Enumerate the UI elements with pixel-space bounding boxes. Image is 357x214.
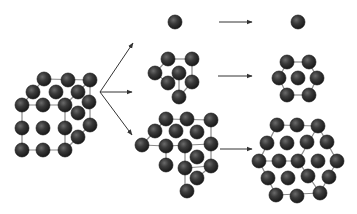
- atom-sphere: [204, 137, 218, 151]
- atom-sphere: [190, 171, 204, 185]
- cluster-rows: [135, 15, 344, 203]
- atom-sphere: [159, 139, 173, 153]
- atom-sphere: [330, 154, 344, 168]
- single-atom-relaxed: [291, 15, 305, 29]
- cube-lattice: [15, 72, 97, 157]
- atom-sphere: [204, 159, 218, 173]
- atom-sphere: [49, 85, 63, 99]
- atom-sphere: [302, 55, 316, 69]
- atom-sphere: [159, 112, 173, 126]
- atom-sphere: [36, 98, 50, 112]
- row-seven-atom-cluster: [148, 52, 324, 104]
- atom-sphere: [311, 119, 325, 133]
- atom-sphere: [148, 66, 162, 80]
- atom-sphere: [311, 154, 325, 168]
- atom-sphere: [178, 161, 192, 175]
- atom-sphere: [71, 130, 85, 144]
- row-single-atom: [168, 15, 305, 29]
- atom-sphere: [71, 106, 85, 120]
- atom-sphere: [37, 72, 51, 86]
- atom-sphere: [272, 71, 286, 85]
- atom-sphere: [83, 73, 97, 87]
- atom-sphere: [280, 136, 294, 150]
- atom-sphere: [261, 171, 275, 185]
- atom-sphere: [82, 95, 96, 109]
- atom-sphere: [280, 88, 294, 102]
- atom-sphere: [270, 118, 284, 132]
- atom-sphere: [281, 171, 295, 185]
- atom-sphere: [252, 154, 266, 168]
- atom-sphere: [180, 184, 194, 198]
- branch-arrows: [100, 43, 133, 135]
- atom-sphere: [302, 88, 316, 102]
- atom-sphere: [36, 121, 50, 135]
- atom-sphere: [269, 188, 283, 202]
- atom-sphere: [15, 98, 29, 112]
- atom-sphere: [272, 154, 286, 168]
- atom-sphere: [83, 118, 97, 132]
- cluster-transformation-diagram: [0, 0, 357, 214]
- atom-sphere: [159, 158, 173, 172]
- atom-sphere: [135, 138, 149, 152]
- atom-sphere: [58, 98, 72, 112]
- nineteen-atom-cluster-initial: [135, 112, 218, 198]
- atom-sphere: [26, 85, 40, 99]
- atom-sphere: [291, 71, 305, 85]
- atom-sphere: [58, 143, 72, 157]
- diagram-canvas: [0, 0, 357, 214]
- branch-arrow-icon: [100, 92, 132, 135]
- atom-sphere: [161, 76, 175, 90]
- atom-sphere: [172, 90, 186, 104]
- atom-sphere: [291, 154, 305, 168]
- atom-sphere: [320, 135, 334, 149]
- atom-sphere: [310, 71, 324, 85]
- atom-sphere: [15, 143, 29, 157]
- atom-sphere: [168, 15, 182, 29]
- atom-sphere: [291, 15, 305, 29]
- atom-sphere: [185, 52, 199, 66]
- seven-atom-cluster-relaxed: [272, 55, 324, 102]
- atom-sphere: [190, 150, 204, 164]
- atom-sphere: [300, 135, 314, 149]
- atom-sphere: [172, 66, 186, 80]
- atom-sphere: [313, 186, 327, 200]
- atom-sphere: [290, 118, 304, 132]
- branch-arrow-icon: [100, 43, 133, 92]
- atom-sphere: [161, 52, 175, 66]
- atom-sphere: [280, 55, 294, 69]
- atom-sphere: [190, 125, 204, 139]
- atom-sphere: [290, 189, 304, 203]
- atom-sphere: [169, 124, 183, 138]
- atom-sphere: [322, 170, 336, 184]
- fcc-cube-structure: [15, 72, 97, 157]
- atom-sphere: [185, 75, 199, 89]
- atom-sphere: [36, 143, 50, 157]
- nineteen-atom-cluster-relaxed: [252, 118, 344, 203]
- atom-sphere: [260, 136, 274, 150]
- seven-atom-cluster-initial: [148, 52, 199, 104]
- atom-sphere: [61, 73, 75, 87]
- atom-sphere: [204, 113, 218, 127]
- atom-sphere: [180, 112, 194, 126]
- atom-sphere: [178, 139, 192, 153]
- atom-sphere: [71, 85, 85, 99]
- atom-sphere: [15, 121, 29, 135]
- atom-sphere: [58, 121, 72, 135]
- row-nineteen-atom-cluster: [135, 112, 344, 203]
- atom-sphere: [148, 124, 162, 138]
- atom-sphere: [301, 169, 315, 183]
- single-atom-initial: [168, 15, 182, 29]
